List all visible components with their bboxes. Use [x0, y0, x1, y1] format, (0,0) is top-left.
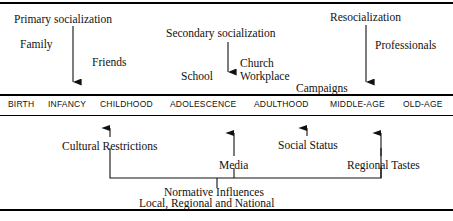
socialization-lifecourse-diagram: Primary socialization Secondary socializ…	[0, 0, 453, 221]
influence-media: Media	[219, 160, 248, 172]
stage-old-age: OLD-AGE	[403, 100, 443, 109]
agent-workplace: Workplace	[240, 71, 290, 83]
stage-adolescence: ADOLESCENCE	[170, 100, 236, 109]
stage-band-top-rule	[0, 94, 453, 96]
heading-primary-socialization: Primary socialization	[14, 14, 112, 26]
stage-childhood: CHILDHOOD	[100, 100, 153, 109]
stage-band-bottom-rule	[0, 115, 453, 116]
heading-resocialization: Resocialization	[330, 12, 401, 24]
heading-secondary-socialization: Secondary socialization	[166, 28, 276, 40]
top-border-rule	[0, 2, 453, 4]
influence-regional-tastes: Regional Tastes	[347, 160, 420, 172]
agent-family: Family	[20, 39, 53, 51]
agent-church: Church	[240, 58, 274, 70]
influence-social-status: Social Status	[278, 140, 338, 152]
agent-professionals: Professionals	[375, 40, 436, 52]
agent-school: School	[181, 71, 213, 83]
stage-infancy: INFANCY	[48, 100, 86, 109]
agent-friends: Friends	[92, 57, 127, 69]
influence-cultural-restrictions: Cultural Restrictions	[62, 141, 158, 153]
agent-campaigns: Campaigns	[296, 83, 348, 95]
summary-local-regional-national: Local, Regional and National	[139, 198, 274, 210]
stage-middle-age: MIDDLE-AGE	[330, 100, 385, 109]
stage-adulthood: ADULTHOOD	[254, 100, 309, 109]
stage-birth: BIRTH	[8, 100, 34, 109]
